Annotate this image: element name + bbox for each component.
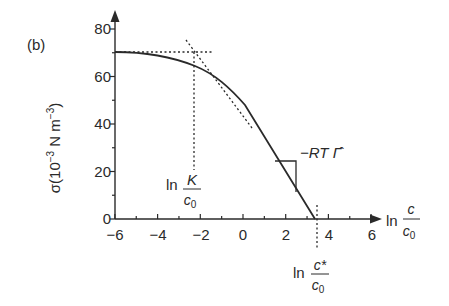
lnCstar-annotation: ln c* c0 bbox=[293, 257, 329, 295]
x-axis-label: ln c c0 bbox=[386, 201, 420, 241]
y-tick-label: 20 bbox=[94, 163, 111, 180]
lnK-ln: ln bbox=[166, 176, 178, 193]
y-tick-label: 0 bbox=[103, 210, 111, 227]
lnCstar-den: c0 bbox=[312, 277, 325, 295]
y-tick-label: 40 bbox=[94, 115, 111, 132]
y-tick-label: 80 bbox=[94, 20, 111, 37]
y-tick-labels: 0 20 40 60 80 bbox=[94, 20, 111, 227]
x-tick-label: 2 bbox=[282, 226, 290, 243]
x-tick-label: 0 bbox=[239, 226, 247, 243]
axis-ticks bbox=[110, 29, 371, 219]
x-tick-label: −6 bbox=[106, 226, 123, 243]
x-label-ln: ln bbox=[386, 212, 398, 229]
lnK-annotation: ln K c0 bbox=[166, 171, 201, 210]
axes bbox=[115, 18, 375, 219]
lnK-num: K bbox=[187, 171, 198, 188]
x-axis-arrow-icon bbox=[370, 215, 382, 224]
x-tick-label: −2 bbox=[192, 226, 209, 243]
chart-svg: −6 −4 −2 0 2 4 6 0 20 40 60 80 (b) σ(10−… bbox=[0, 0, 449, 306]
x-tick-label: −4 bbox=[149, 226, 166, 243]
slope-triangle bbox=[275, 161, 296, 192]
slope-label: −RT Γ̂ bbox=[300, 144, 344, 161]
tangent-line bbox=[186, 40, 252, 128]
lnCstar-num: c* bbox=[314, 257, 327, 273]
sigma-curve bbox=[115, 52, 315, 219]
y-axis-label: σ(10−3 N m−3) bbox=[45, 103, 63, 193]
y-tick-label: 60 bbox=[94, 68, 111, 85]
panel-label: (b) bbox=[27, 36, 45, 53]
x-label-den: c0 bbox=[403, 223, 416, 241]
x-label-num: c bbox=[408, 201, 415, 217]
y-axis-arrow-icon bbox=[111, 10, 120, 22]
x-tick-label: 4 bbox=[325, 226, 333, 243]
x-tick-labels: −6 −4 −2 0 2 4 6 bbox=[106, 226, 376, 243]
x-tick-label: 6 bbox=[368, 226, 376, 243]
lnCstar-ln: ln bbox=[293, 264, 305, 281]
lnK-den: c0 bbox=[184, 192, 197, 210]
